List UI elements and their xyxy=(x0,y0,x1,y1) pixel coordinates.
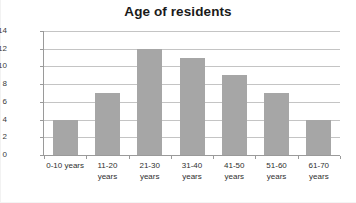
gridline-12 xyxy=(44,49,340,50)
x-label-line1: 11-20 xyxy=(97,161,117,170)
x-tick-mark-1 xyxy=(86,156,87,159)
plot-area xyxy=(44,31,340,155)
gridline-14 xyxy=(44,31,340,32)
chart-title: Age of residents xyxy=(0,4,356,20)
x-label-line1: 41-50 xyxy=(224,161,244,170)
y-tick-label-4: 4 xyxy=(0,116,7,124)
bar-31-40-years xyxy=(180,58,205,155)
x-tick-mark-end xyxy=(340,156,341,159)
x-tick-mark-6 xyxy=(298,156,299,159)
y-tick-mark-6 xyxy=(40,102,43,103)
bar-21-30-years xyxy=(137,49,162,155)
y-tick-label-12: 12 xyxy=(0,45,7,53)
x-axis-label-61-70-years: 61-70years xyxy=(292,161,346,182)
x-label-line1: 31-40 xyxy=(182,161,202,170)
bar-0-10-years xyxy=(53,120,78,155)
y-tick-mark-2 xyxy=(40,137,43,138)
bar-41-50-years xyxy=(222,75,247,155)
y-tick-label-8: 8 xyxy=(0,80,7,88)
bottom-edge-tint xyxy=(0,202,356,203)
bar-51-60-years xyxy=(264,93,289,155)
y-tick-label-10: 10 xyxy=(0,62,7,70)
x-label-line1: 51-60 xyxy=(266,161,286,170)
gridline-0 xyxy=(44,155,340,156)
x-label-line1: 0-10 years xyxy=(46,161,84,170)
x-tick-mark-2 xyxy=(129,156,130,159)
x-label-line1: 61-70 xyxy=(309,161,329,170)
y-tick-mark-10 xyxy=(40,66,43,67)
y-tick-label-6: 6 xyxy=(0,98,7,106)
x-label-line2: years xyxy=(292,172,346,183)
y-tick-label-0: 0 xyxy=(0,151,7,159)
x-tick-mark-3 xyxy=(171,156,172,159)
y-tick-label-14: 14 xyxy=(0,27,7,35)
y-tick-mark-14 xyxy=(40,31,43,32)
x-label-line1: 21-30 xyxy=(139,161,159,170)
y-tick-mark-12 xyxy=(40,49,43,50)
y-tick-mark-8 xyxy=(40,84,43,85)
y-tick-label-2: 2 xyxy=(0,133,7,141)
x-tick-mark-5 xyxy=(255,156,256,159)
bar-chart: Age of residents 02468101214 0-10 years1… xyxy=(0,0,356,203)
y-tick-mark-4 xyxy=(40,120,43,121)
bar-61-70-years xyxy=(306,120,331,155)
x-tick-mark-4 xyxy=(213,156,214,159)
x-tick-mark-0 xyxy=(44,156,45,159)
y-tick-mark-0 xyxy=(40,155,43,156)
bar-11-20-years xyxy=(95,93,120,155)
